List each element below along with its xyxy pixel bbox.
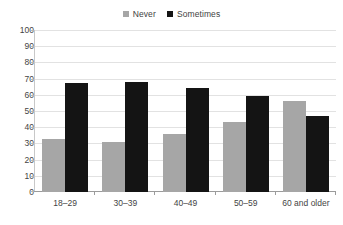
legend-label-never: Never <box>133 10 156 19</box>
legend-label-sometimes: Sometimes <box>177 10 220 19</box>
x-tick-mark <box>275 192 276 195</box>
x-tick-label: 50–59 <box>216 198 276 208</box>
x-axis-labels: 18–29 30–39 40–49 50–59 60 and older <box>35 198 336 208</box>
x-tick-label: 18–29 <box>35 198 95 208</box>
bar-never[interactable] <box>42 139 65 192</box>
x-tick-mark <box>215 192 216 195</box>
bar-group <box>35 30 95 192</box>
bar-group <box>216 30 276 192</box>
bar-sometimes[interactable] <box>246 96 269 192</box>
bar-chart: Never Sometimes 100 90 80 70 60 50 40 30… <box>0 0 343 225</box>
bar-group <box>95 30 155 192</box>
legend-entry-never: Never <box>123 10 156 19</box>
legend-swatch-sometimes-icon <box>167 11 173 17</box>
bar-sometimes[interactable] <box>186 88 209 192</box>
x-tick-mark <box>94 192 95 195</box>
bar-group <box>155 30 215 192</box>
bar-sometimes[interactable] <box>306 116 329 192</box>
bars-layer <box>35 30 336 192</box>
bar-sometimes[interactable] <box>125 82 148 192</box>
bar-never[interactable] <box>223 122 246 192</box>
bar-never[interactable] <box>163 134 186 192</box>
bar-never[interactable] <box>102 142 125 192</box>
chart-legend: Never Sometimes <box>0 8 343 20</box>
y-tick-label: 0 <box>8 188 34 197</box>
legend-entry-sometimes: Sometimes <box>167 10 220 19</box>
x-tick-label: 60 and older <box>276 198 336 208</box>
x-tick-label: 30–39 <box>95 198 155 208</box>
bar-group <box>276 30 336 192</box>
legend-swatch-never-icon <box>123 11 129 17</box>
bar-sometimes[interactable] <box>65 83 88 192</box>
x-tick-mark <box>335 192 336 195</box>
x-tick-mark <box>154 192 155 195</box>
plot-area <box>34 30 336 192</box>
bar-never[interactable] <box>283 101 306 192</box>
x-tick-label: 40–49 <box>155 198 215 208</box>
